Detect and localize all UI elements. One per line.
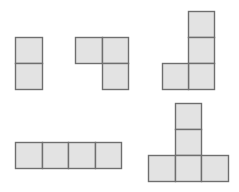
square-cell: [202, 156, 229, 182]
square-cell: [96, 143, 122, 169]
square-cell: [76, 38, 103, 64]
square-cell: [149, 156, 176, 182]
shape-domino-vertical: [16, 38, 43, 90]
shape-tetromino-i: [16, 143, 122, 169]
square-cell: [176, 130, 202, 156]
shape-tetromino-j: [163, 12, 215, 90]
shape-pentomino-t: [149, 104, 229, 182]
square-cell: [16, 143, 43, 169]
square-cell: [16, 38, 43, 64]
square-cell: [163, 64, 189, 90]
square-cell: [189, 64, 215, 90]
square-cell: [176, 156, 202, 182]
square-cell: [103, 38, 129, 64]
polyomino-diagram: [0, 0, 239, 192]
square-cell: [69, 143, 96, 169]
square-cell: [189, 12, 215, 38]
shape-tromino-l: [76, 38, 129, 90]
square-cell: [16, 64, 43, 90]
square-cell: [176, 104, 202, 130]
square-cell: [189, 38, 215, 64]
square-cell: [43, 143, 69, 169]
square-cell: [103, 64, 129, 90]
